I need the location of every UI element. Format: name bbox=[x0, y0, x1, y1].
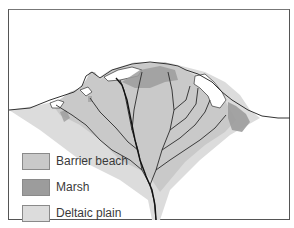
legend-label: Barrier beach bbox=[56, 154, 128, 168]
legend-label: Marsh bbox=[56, 180, 89, 194]
legend-item-deltaic-plain: Deltaic plain bbox=[22, 200, 128, 226]
marsh-west-2 bbox=[88, 96, 92, 102]
legend: Barrier beach Marsh Deltaic plain bbox=[22, 148, 128, 226]
legend-label: Deltaic plain bbox=[56, 206, 121, 220]
legend-item-marsh: Marsh bbox=[22, 174, 128, 200]
deltaic-plain-swatch bbox=[22, 205, 50, 222]
marsh-swatch bbox=[22, 179, 50, 196]
barrier-beach-swatch bbox=[22, 153, 50, 170]
legend-item-barrier-beach: Barrier beach bbox=[22, 148, 128, 174]
